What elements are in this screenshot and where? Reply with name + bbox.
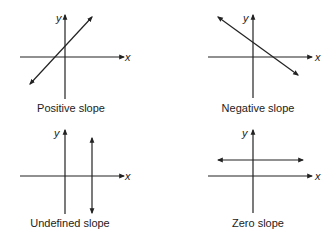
caption-negative-slope: Negative slope xyxy=(222,102,295,114)
positive-slope-line xyxy=(30,17,92,84)
panel-zero-slope: x y Zero slope xyxy=(208,127,321,229)
x-axis-label: x xyxy=(314,170,321,182)
caption-positive-slope: Positive slope xyxy=(37,102,105,114)
panel-positive-slope: x y Positive slope xyxy=(20,12,131,114)
caption-undefined-slope: Undefined slope xyxy=(30,217,110,229)
negative-slope-line xyxy=(218,17,298,75)
y-axis-label: y xyxy=(53,127,61,139)
slope-diagram: x y Positive slope x y Negative slope x … xyxy=(0,0,335,234)
y-axis-label: y xyxy=(242,12,250,24)
y-axis-label: y xyxy=(55,12,63,24)
x-axis-label: x xyxy=(314,51,321,63)
caption-zero-slope: Zero slope xyxy=(232,217,284,229)
panel-undefined-slope: x y Undefined slope xyxy=(20,127,131,229)
x-axis-label: x xyxy=(124,51,131,63)
panel-negative-slope: x y Negative slope xyxy=(208,12,321,114)
x-axis-label: x xyxy=(124,170,131,182)
y-axis-label: y xyxy=(241,127,249,139)
